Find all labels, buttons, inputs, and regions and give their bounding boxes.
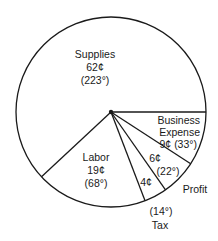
center-dot — [109, 110, 113, 114]
profit-degrees: (22°) — [157, 165, 180, 177]
pie-chart: Supplies 62¢ (223°) Business Expense 9¢ … — [0, 0, 218, 241]
pie-chart-svg: Supplies 62¢ (223°) Business Expense 9¢ … — [0, 0, 218, 241]
supplies-name: Supplies — [75, 48, 115, 60]
labor-value: 19¢ — [87, 164, 105, 176]
supplies-value: 62¢ — [86, 61, 104, 73]
profit-value: 6¢ — [149, 152, 161, 164]
business-value-degrees: 9¢ (33°) — [160, 138, 197, 150]
tax-name: Tax — [152, 219, 169, 231]
supplies-degrees: (223°) — [81, 74, 110, 86]
business-name-line2: Expense — [159, 126, 200, 138]
labor-degrees: (68°) — [85, 177, 108, 189]
business-name-line1: Business — [157, 114, 200, 126]
label-business-expense: Business Expense 9¢ (33°) — [157, 114, 200, 150]
labor-name: Labor — [83, 151, 110, 163]
profit-name: Profit — [183, 183, 208, 195]
tax-value: 4¢ — [140, 176, 152, 188]
tax-degrees: (14°) — [150, 205, 173, 217]
